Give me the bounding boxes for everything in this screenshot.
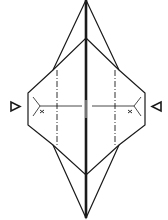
left-y-branch-bottom [33, 106, 40, 116]
left-y-branch-top [33, 97, 40, 106]
right-y-branch-top [134, 97, 141, 106]
origami-diagram [0, 0, 168, 220]
right-x-mark [128, 110, 132, 113]
diagram-canvas [0, 0, 168, 220]
left-push-arrow-icon [11, 102, 20, 111]
right-push-arrow-icon [152, 102, 161, 111]
right-y-branch-bottom [134, 106, 141, 116]
left-x-mark [40, 110, 44, 113]
